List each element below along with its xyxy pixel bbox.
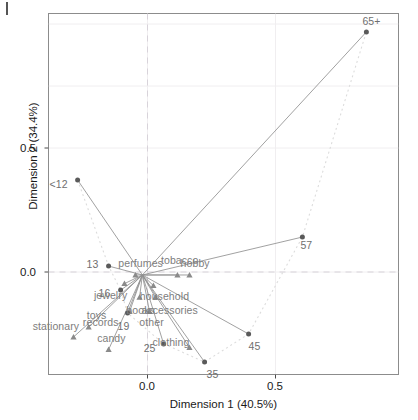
age-marker-35[interactable]	[202, 360, 207, 365]
age-label-35: 35	[207, 368, 219, 380]
category-label-accessories: accessories	[141, 304, 198, 316]
x-axis-label: Dimension 1 (40.5%)	[48, 398, 399, 410]
age-label-13: 13	[87, 258, 99, 270]
category-label-household: household	[140, 290, 189, 302]
category-marker-candy[interactable]	[105, 347, 111, 353]
y-axis-label: Dimension 2 (34.4%)	[27, 71, 39, 241]
age-marker-<12[interactable]	[75, 177, 80, 182]
x-tick-label-0_5: 0.5	[255, 380, 295, 392]
scatter-plot-canvas	[0, 0, 418, 420]
category-label-candy: candy	[97, 332, 126, 344]
age-label-65+: 65+	[362, 15, 380, 27]
x-tick-label-0_0: 0.0	[127, 380, 167, 392]
category-label-hobby: hobby	[181, 257, 210, 269]
age-label-45: 45	[249, 340, 261, 352]
age-label-19: 19	[118, 320, 130, 332]
category-label-records: records	[83, 316, 119, 328]
category-label-perfumes: perfumes	[118, 257, 163, 269]
y-tick-label-0_0: 0.0	[0, 266, 36, 278]
age-marker-13[interactable]	[106, 264, 111, 269]
age-label-57: 57	[300, 239, 312, 251]
category-label-jewelry: jewelry	[94, 289, 127, 301]
age-marker-45[interactable]	[246, 332, 251, 337]
category-label-clothing: clothing	[152, 336, 189, 348]
chart-root: 0.5 0.0 0.0 0.5 Dimension 2 (34.4%) Dime…	[0, 0, 418, 420]
age-label-<12: <12	[50, 178, 68, 190]
category-label-other: other	[139, 316, 163, 328]
category-marker-jewelry[interactable]	[121, 281, 127, 287]
category-label-stationary: stationary	[33, 320, 80, 332]
age-marker-65+[interactable]	[364, 29, 369, 34]
